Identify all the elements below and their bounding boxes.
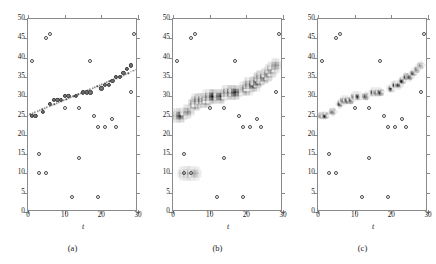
data-point-outlier <box>77 106 81 110</box>
x-tick-label: 20 <box>98 212 105 219</box>
data-point-outlier <box>400 117 404 121</box>
data-point-outlier <box>96 195 100 199</box>
fit-line-dot <box>130 72 131 73</box>
y-tick-label: 20 <box>163 131 172 138</box>
density-cell <box>222 100 225 103</box>
y-tick-label: 5 <box>311 189 317 196</box>
data-point-outlier <box>96 125 100 129</box>
y-tick <box>426 77 430 78</box>
caption-a: (a) <box>0 243 145 253</box>
fit-line-dot <box>133 71 134 72</box>
y-tick-label: 50 <box>163 15 172 22</box>
fit-line-dot <box>37 111 38 112</box>
y-tick-label: 40 <box>18 54 27 61</box>
data-point-outlier <box>277 32 281 36</box>
plot-canvas-a <box>28 19 136 210</box>
fit-line-dot <box>123 75 124 76</box>
y-tick <box>136 173 140 174</box>
y-tick <box>281 173 285 174</box>
fit-line-dot <box>46 107 47 108</box>
data-point-outlier <box>327 171 331 175</box>
data-point-outlier <box>419 90 423 94</box>
density-cell <box>199 169 202 172</box>
y-tick <box>426 116 430 117</box>
x-axis-title-b: t <box>227 222 229 231</box>
data-point-outlier <box>37 171 41 175</box>
fit-line-dot <box>78 94 79 95</box>
plot-canvas-c <box>318 19 426 210</box>
data-point-inlier <box>33 113 37 117</box>
y-tick <box>281 135 285 136</box>
x-tick <box>28 15 29 19</box>
data-point-outlier <box>88 59 92 63</box>
y-tick <box>136 58 140 59</box>
fit-line-dot <box>44 108 45 109</box>
data-point-outlier <box>132 32 136 36</box>
data-point-inlier <box>125 67 129 71</box>
density-cell <box>258 88 261 91</box>
data-point-outlier <box>110 117 114 121</box>
x-tick <box>283 15 284 19</box>
x-tick-label: 30 <box>424 212 431 219</box>
y-tick-label: 20 <box>18 131 27 138</box>
x-tick <box>246 15 247 19</box>
panel-b: 051015202530354045500102030 t (b) <box>145 0 290 264</box>
data-point-outlier <box>241 125 245 129</box>
density-cell <box>258 85 261 88</box>
y-tick <box>426 58 430 59</box>
y-tick-label: 30 <box>18 93 27 100</box>
y-tick-label: 40 <box>163 54 172 61</box>
x-axis-title-a: t <box>82 222 84 231</box>
density-cell <box>196 108 199 111</box>
y-tick-label: 10 <box>18 170 27 177</box>
caption-c: (c) <box>290 243 435 253</box>
fit-line-dot <box>66 99 67 100</box>
y-tick <box>281 38 285 39</box>
y-tick-label: 25 <box>308 112 317 119</box>
data-point-outlier <box>77 156 81 160</box>
plot-area-c: 051015202530354045500102030 <box>317 18 427 211</box>
plot-canvas-b <box>173 19 281 210</box>
y-tick-label: 15 <box>18 150 27 157</box>
x-tick-label: 10 <box>206 212 213 219</box>
data-point-outlier <box>189 36 193 40</box>
y-tick-label: 25 <box>18 112 27 119</box>
y-tick <box>426 154 430 155</box>
y-tick <box>426 96 430 97</box>
density-cell <box>273 73 276 76</box>
data-point-outlier <box>338 32 342 36</box>
y-tick <box>281 77 285 78</box>
density-cell <box>280 61 281 64</box>
y-tick-label: 45 <box>163 35 172 42</box>
data-point-inlier <box>129 63 133 67</box>
x-axis-title-c: t <box>372 222 374 231</box>
data-point-outlier <box>48 32 52 36</box>
data-point-outlier <box>103 125 107 129</box>
density-cell <box>334 110 337 113</box>
plot-area-b: 051015202530354045500102030 <box>172 18 282 211</box>
fit-line-dot <box>68 98 69 99</box>
density-cell <box>280 66 281 69</box>
plot-area-a: 051015202530354045500102030 <box>27 18 137 211</box>
x-tick <box>391 15 392 19</box>
y-tick <box>136 193 140 194</box>
x-tick <box>428 15 429 19</box>
data-point-outlier <box>193 32 197 36</box>
y-tick-label: 25 <box>163 112 172 119</box>
y-tick-label: 45 <box>18 35 27 42</box>
y-tick-label: 15 <box>308 150 317 157</box>
density-cell <box>192 113 195 116</box>
y-tick-label: 40 <box>308 54 317 61</box>
fit-line-dot <box>28 115 29 116</box>
y-tick-label: 5 <box>166 189 172 196</box>
density-cell <box>189 115 192 118</box>
y-tick-label: 50 <box>18 15 27 22</box>
y-tick-label: 10 <box>308 170 317 177</box>
y-tick-label: 35 <box>18 73 27 80</box>
x-tick <box>138 15 139 19</box>
figure-three-panel-scatter: 051015202530354045500102030 t (a) 051015… <box>0 0 436 264</box>
x-tick-label: 10 <box>351 212 358 219</box>
x-tick-label: 10 <box>61 212 68 219</box>
fit-line-dot <box>97 86 98 87</box>
y-tick <box>281 154 285 155</box>
